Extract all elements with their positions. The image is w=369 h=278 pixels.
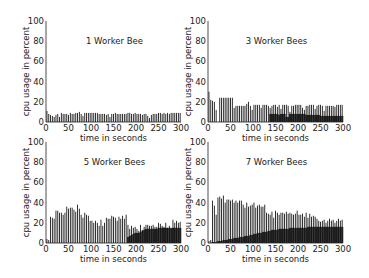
y-tick-label: 20 <box>33 97 44 107</box>
x-tick-label: 100 <box>83 244 99 254</box>
y-tick-label: 80 <box>33 36 44 46</box>
x-tick-label: 0 <box>43 123 48 133</box>
x-tick-label: 50 <box>63 244 74 254</box>
x-tick-label: 50 <box>225 244 236 254</box>
x-tick-label: 200 <box>128 123 144 133</box>
x-tick-label: 300 <box>173 244 189 254</box>
x-tick-label: 200 <box>128 244 144 254</box>
y-tick-label: 60 <box>195 56 206 66</box>
x-tick-label: 300 <box>335 123 351 133</box>
y-axis-label: cpu usage in percent <box>21 26 31 116</box>
y-tick-label: 20 <box>195 97 206 107</box>
x-axis-label: time in seconds <box>242 133 310 143</box>
y-tick-label: 60 <box>33 177 44 187</box>
x-tick-label: 150 <box>105 244 121 254</box>
x-tick-label: 200 <box>290 123 306 133</box>
x-tick-label: 0 <box>205 123 210 133</box>
y-tick-label: 40 <box>195 198 206 208</box>
x-axis-label: time in seconds <box>80 254 148 264</box>
x-tick-label: 150 <box>267 244 283 254</box>
panel-5-worker-bees: 020406080100050100150200250300time in se… <box>21 137 189 264</box>
y-tick-label: 80 <box>33 157 44 167</box>
panel-title: 7 Worker Bees <box>246 157 308 167</box>
figure: 020406080100050100150200250300time in se… <box>0 0 369 278</box>
x-tick-label: 0 <box>43 244 48 254</box>
y-tick-label: 100 <box>190 16 206 26</box>
x-tick-label: 200 <box>290 244 306 254</box>
panel-title: 5 Worker Bees <box>84 157 146 167</box>
x-tick-label: 100 <box>245 244 261 254</box>
x-tick-label: 250 <box>150 123 166 133</box>
y-tick-label: 20 <box>195 218 206 228</box>
y-tick-label: 60 <box>33 56 44 66</box>
x-tick-label: 300 <box>173 123 189 133</box>
x-axis-label: time in seconds <box>80 133 148 143</box>
x-tick-label: 150 <box>105 123 121 133</box>
y-tick-label: 20 <box>33 218 44 228</box>
x-tick-label: 100 <box>83 123 99 133</box>
y-axis-label: cpu usage in percent <box>183 26 193 116</box>
y-tick-label: 100 <box>28 137 44 147</box>
panel-3-worker-bees: 020406080100050100150200250300time in se… <box>183 16 351 143</box>
bars <box>47 111 181 122</box>
bars <box>209 92 344 122</box>
bars <box>47 205 182 243</box>
panel-1-worker-bee: 020406080100050100150200250300time in se… <box>21 16 189 143</box>
panel-7-worker-bees: 020406080100050100150200250300time in se… <box>183 137 351 264</box>
y-tick-label: 80 <box>195 157 206 167</box>
x-tick-label: 100 <box>245 123 261 133</box>
y-axis-label: cpu usage in percent <box>21 147 31 237</box>
bars <box>209 196 344 243</box>
y-tick-label: 60 <box>195 177 206 187</box>
y-tick-label: 40 <box>33 77 44 87</box>
x-tick-label: 0 <box>205 244 210 254</box>
panel-title: 3 Worker Bees <box>246 36 308 46</box>
x-tick-label: 250 <box>312 244 328 254</box>
x-tick-label: 250 <box>312 123 328 133</box>
x-axis-label: time in seconds <box>242 254 310 264</box>
y-axis-label: cpu usage in percent <box>183 147 193 237</box>
panel-title: 1 Worker Bee <box>86 36 143 46</box>
x-tick-label: 50 <box>225 123 236 133</box>
x-tick-label: 150 <box>267 123 283 133</box>
y-tick-label: 40 <box>33 198 44 208</box>
x-tick-label: 250 <box>150 244 166 254</box>
y-tick-label: 40 <box>195 77 206 87</box>
y-tick-label: 100 <box>190 137 206 147</box>
x-tick-label: 300 <box>335 244 351 254</box>
x-tick-label: 50 <box>63 123 74 133</box>
y-tick-label: 80 <box>195 36 206 46</box>
y-tick-label: 100 <box>28 16 44 26</box>
